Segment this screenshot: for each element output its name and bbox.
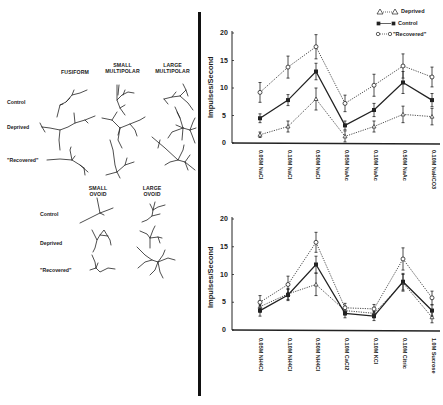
- data-point: [430, 305, 434, 316]
- bottom-chart-plot: [0, 0, 443, 405]
- data-point: [314, 273, 318, 295]
- data-point: [286, 276, 290, 293]
- data-point: [430, 291, 434, 304]
- data-point: [314, 256, 318, 273]
- data-point: [401, 248, 405, 270]
- data-point: [314, 232, 318, 252]
- data-point: [401, 273, 405, 290]
